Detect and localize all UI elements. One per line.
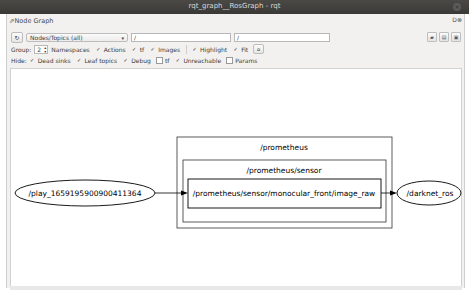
check-icon: ✓ [76,57,83,64]
divider [186,45,187,54]
image-icon: ▣ [454,34,459,40]
check-icon: ✓ [191,46,198,53]
cluster-prometheus-label: /prometheus [260,143,308,152]
hide-label: Hide: [11,57,27,64]
check-icon: ✓ [122,57,129,64]
graph-canvas[interactable]: /prometheus /prometheus/sensor /promethe… [10,68,462,287]
options-row: Group: 2 ▴▾ Namespaces ✓Actions ✓tf ✓Ima… [11,44,264,54]
check-icon: ✓ [149,46,156,53]
checkbox-actions[interactable]: ✓Actions [95,46,126,53]
node-play-label: /play_1659195900900411364 [29,189,142,198]
spin-arrows-icon[interactable]: ▴▾ [44,46,46,54]
group-spinbox[interactable]: 2 ▴▾ [34,45,48,54]
close-icon[interactable]: × [453,3,461,11]
node-filter-input[interactable]: / [131,33,231,42]
checkbox-images[interactable]: ✓Images [149,46,180,53]
checkbox-tf[interactable]: ✓tf [131,46,144,53]
checkbox-namespaces[interactable]: Namespaces [51,46,89,53]
dock-controls[interactable]: D⊗ [452,16,462,23]
fit-view-button[interactable]: ⌂ [253,44,264,54]
filter-row: ↻ Nodes/Topics (all) ▾ / / [11,32,330,43]
status-bar [10,286,462,290]
load-icon: ▰ [430,34,434,40]
save-dot-button[interactable]: ▤ [439,32,449,42]
node-darknet-label: /darknet_ros [407,189,454,198]
save-icon: ▤ [442,34,447,40]
mode-select[interactable]: Nodes/Topics (all) ▾ [26,33,128,42]
checkbox-fit[interactable]: ✓Fit [232,46,248,53]
chevron-down-icon: ▾ [121,35,124,41]
topic-image-raw-label: /prometheus/sensor/monocular_front/image… [193,189,376,198]
check-icon: ✓ [95,46,102,53]
load-dot-button[interactable]: ▰ [427,32,437,42]
checkbox-debug[interactable]: ✓Debug [122,57,151,64]
checkbox-unreachable[interactable]: ✓Unreachable [174,57,221,64]
edge-play-to-topic [155,191,188,196]
fit-view-icon: ⌂ [257,46,260,52]
window-titlebar: rqt_graph__RosGraph - rqt × [0,0,469,14]
refresh-icon: ↻ [14,34,19,41]
refresh-button[interactable]: ↻ [11,32,23,43]
dock-close-icon[interactable]: ⊗ [457,16,462,23]
cluster-sensor-label: /prometheus/sensor [246,166,322,175]
checkbox-hide-tf[interactable]: tf [156,57,169,64]
checkbox-leaf-topics[interactable]: ✓Leaf topics [76,57,118,64]
window-title: rqt_graph__RosGraph - rqt [0,2,469,10]
dock-title: ⇗Node Graph [9,17,53,25]
hide-row: Hide: ✓Dead sinks ✓Leaf topics ✓Debug tf… [11,57,262,64]
checkbox-dead-sinks[interactable]: ✓Dead sinks [29,57,71,64]
check-icon: ✓ [174,57,181,64]
check-icon: ✓ [29,57,36,64]
checkbox-empty-icon [226,57,233,64]
checkbox-params[interactable]: Params [226,57,257,64]
graph-svg: /prometheus /prometheus/sensor /promethe… [11,69,463,288]
topic-filter-input[interactable]: / [234,33,330,42]
check-icon: ✓ [131,46,138,53]
checkbox-highlight[interactable]: ✓Highlight [191,46,227,53]
group-label: Group: [11,46,31,53]
edge-topic-to-darknet [381,191,397,196]
save-image-button[interactable]: ▣ [451,32,461,42]
check-icon: ✓ [232,46,239,53]
checkbox-empty-icon [156,57,163,64]
